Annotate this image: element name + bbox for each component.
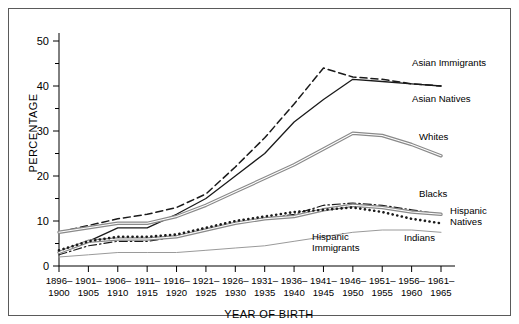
x-axis-title: YEAR OF BIRTH — [159, 308, 379, 320]
x-tick-label-top: 1941– — [310, 275, 337, 286]
x-tick-label-top: 1946– — [340, 275, 367, 286]
x-tick-label-bottom: 1925 — [195, 287, 216, 298]
x-tick-label-bottom: 1945 — [313, 287, 334, 298]
series-annotation-asian-immigrants: Asian Immigrants — [412, 57, 486, 68]
x-tick-label-bottom: 1920 — [166, 287, 187, 298]
series-annotation-hispanic: Hispanic — [312, 231, 349, 242]
series-line-whites-outer — [59, 133, 441, 232]
x-tick-label-bottom: 1900 — [48, 287, 69, 298]
x-tick-label-bottom: 1935 — [254, 287, 275, 298]
chart-frame: 010203040501896–19001901–19051906–191019… — [8, 8, 511, 316]
series-annotation-immigrants: Immigrants — [312, 242, 360, 253]
x-tick-label-top: 1911– — [134, 275, 161, 286]
series-annotation-blacks: Blacks — [419, 188, 447, 199]
x-tick-label-bottom: 1960 — [401, 287, 422, 298]
series-annotation-natives: Natives — [450, 216, 482, 227]
x-tick-label-bottom: 1930 — [225, 287, 246, 298]
x-tick-label-top: 1916– — [163, 275, 190, 286]
x-tick-label-top: 1896– — [46, 275, 73, 286]
y-axis-title: PERCENTAGE — [27, 73, 39, 193]
x-tick-label-top: 1921– — [193, 275, 220, 286]
x-tick-label-bottom: 1905 — [78, 287, 99, 298]
x-tick-label-top: 1906– — [104, 275, 131, 286]
x-tick-label-bottom: 1940 — [283, 287, 304, 298]
chart-page: 010203040501896–19001901–19051906–191019… — [0, 0, 519, 324]
x-tick-label-top: 1956– — [398, 275, 425, 286]
y-tick-label: 0 — [43, 260, 49, 272]
x-tick-label-top: 1926– — [222, 275, 249, 286]
line-chart: 010203040501896–19001901–19051906–191019… — [9, 9, 510, 315]
x-tick-label-top: 1931– — [251, 275, 278, 286]
x-tick-label-top: 1951– — [369, 275, 396, 286]
x-tick-label-bottom: 1915 — [136, 287, 157, 298]
x-tick-label-top: 1901– — [75, 275, 102, 286]
series-line-asian-natives — [59, 79, 441, 252]
x-tick-label-bottom: 1910 — [107, 287, 128, 298]
series-annotation-whites: Whites — [419, 131, 449, 142]
x-tick-label-bottom: 1950 — [342, 287, 363, 298]
series-annotation-asian-natives: Asian Natives — [412, 93, 471, 104]
y-tick-label: 10 — [37, 215, 49, 227]
x-tick-label-top: 1961– — [428, 275, 455, 286]
series-line-whites-inner — [59, 133, 441, 232]
series-annotation-hispanic: Hispanic — [450, 205, 487, 216]
x-tick-label-bottom: 1955 — [372, 287, 393, 298]
x-tick-label-top: 1936– — [281, 275, 308, 286]
y-tick-label: 50 — [37, 35, 49, 47]
series-line-hispanic-immigrants — [59, 230, 441, 257]
x-tick-label-bottom: 1965 — [430, 287, 451, 298]
series-annotation-indians: Indians — [404, 232, 435, 243]
